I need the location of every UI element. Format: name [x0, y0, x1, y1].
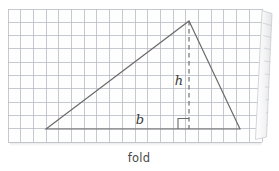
height-label: h — [175, 73, 183, 88]
figure-container: h b fold — [0, 0, 279, 171]
base-label: b — [136, 112, 144, 127]
grid-paper-figure: h b fold — [0, 0, 279, 171]
fold-caption: fold — [128, 151, 150, 165]
